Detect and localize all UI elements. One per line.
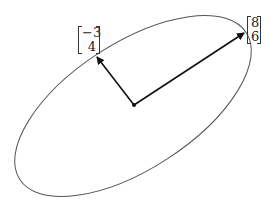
center-point	[132, 103, 136, 107]
vector-label-8-6: 8 6	[247, 16, 261, 44]
vector-label-top: −3	[82, 26, 96, 40]
vector-label-bottom: 4	[82, 40, 96, 54]
diagram-canvas	[0, 0, 274, 205]
vector-8-6-arrow	[134, 33, 244, 105]
diagram: −3 4 8 6	[0, 0, 274, 205]
vector-label-neg3-4: −3 4	[78, 26, 100, 54]
vector-neg3-4-arrow	[97, 57, 134, 105]
